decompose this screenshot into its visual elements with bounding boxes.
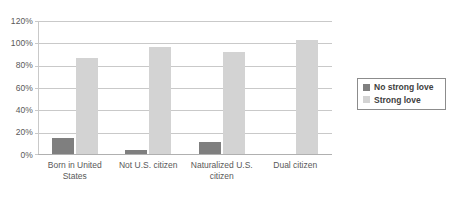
bars-layer: [38, 21, 332, 155]
bar-no-strong-love-1: [125, 150, 147, 154]
y-tick-label: 120%: [11, 17, 33, 26]
y-tick-label: 80%: [16, 61, 33, 70]
y-tick-label: 20%: [16, 128, 33, 137]
bar-strong-love-3: [296, 40, 318, 154]
legend-swatch-icon: [363, 96, 370, 103]
y-tick-label: 40%: [16, 106, 33, 115]
bar-chart: 120% 100% 80% 60% 40% 20% 0% Born in Uni…: [0, 0, 453, 200]
bar-strong-love-2: [223, 52, 245, 154]
legend-swatch-icon: [363, 84, 370, 91]
category-label: Born in United States: [38, 160, 112, 182]
bar-strong-love-0: [76, 58, 98, 154]
bar-no-strong-love-2: [199, 142, 221, 154]
y-tick-label: 0%: [21, 151, 34, 160]
legend-label: Strong love: [374, 96, 421, 105]
legend-item-no-strong-love: No strong love: [363, 83, 440, 92]
bar-strong-love-1: [149, 47, 171, 154]
y-tick-label: 60%: [16, 84, 33, 93]
bar-no-strong-love-0: [52, 138, 74, 154]
category-label: Naturalized U.S. citizen: [185, 160, 259, 182]
legend-label: No strong love: [374, 83, 434, 92]
y-axis: 120% 100% 80% 60% 40% 20% 0%: [0, 0, 36, 200]
legend-item-strong-love: Strong love: [363, 96, 440, 105]
category-label: Dual citizen: [259, 160, 333, 171]
y-tick-label: 100%: [11, 39, 33, 48]
x-axis-category-labels: Born in United StatesNot U.S. citizenNat…: [38, 160, 332, 200]
plot-area: [38, 21, 332, 155]
category-label: Not U.S. citizen: [112, 160, 186, 171]
legend: No strong love Strong love: [357, 78, 446, 110]
